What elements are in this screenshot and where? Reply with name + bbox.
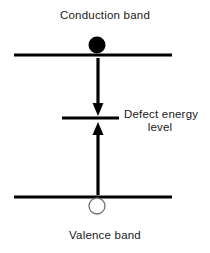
energy-band-diagram: Conduction band Defect energylevel Valen…	[0, 0, 210, 253]
electron-capture-arrow	[93, 58, 104, 116]
electron-capture-arrow-head	[93, 103, 104, 116]
hole-capture-arrow	[93, 122, 104, 195]
valence-band-label: Valence band	[0, 229, 210, 241]
defect-energy-level-label-line1: Defect energy	[124, 108, 198, 120]
hole-dot	[89, 198, 105, 214]
conduction-band-label: Conduction band	[0, 9, 210, 21]
defect-energy-level-label: Defect energylevel	[124, 108, 208, 133]
electron-dot	[89, 37, 106, 54]
hole-capture-arrow-head	[93, 122, 104, 135]
defect-energy-level-label-line2: level	[124, 121, 196, 134]
